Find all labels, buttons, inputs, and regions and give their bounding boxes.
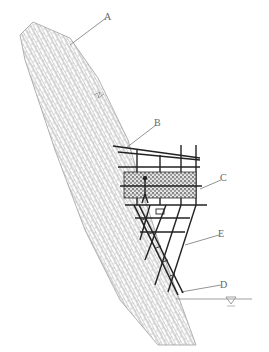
label-a: A (104, 12, 111, 22)
label-c: C (220, 173, 227, 183)
label-d: D (220, 280, 227, 290)
leader-e (185, 235, 219, 245)
label-b: B (154, 118, 161, 128)
label-e: E (218, 229, 224, 239)
leader-a (70, 18, 106, 45)
leader-d (181, 285, 221, 292)
slope-scaffold-diagram (0, 0, 269, 352)
leader-c (200, 180, 221, 189)
leader-b (126, 125, 156, 148)
water-level-icon (226, 297, 236, 304)
